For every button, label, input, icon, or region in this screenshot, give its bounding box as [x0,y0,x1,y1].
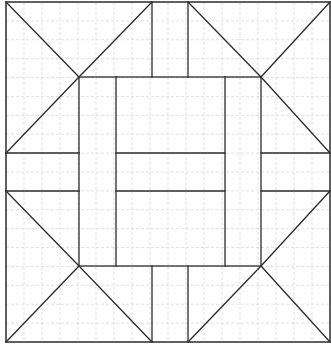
background [0,0,331,347]
quilt-block-diagram [0,0,331,347]
